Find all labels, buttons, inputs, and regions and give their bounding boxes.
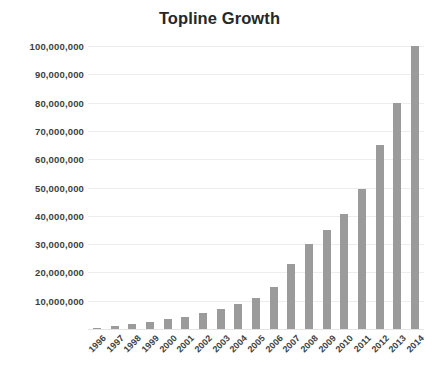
- bar[interactable]: [393, 103, 401, 329]
- bar[interactable]: [411, 46, 419, 329]
- bar[interactable]: [323, 230, 331, 329]
- y-axis-tick-label: 50,000,000: [0, 182, 84, 193]
- y-axis-tick-label: 20,000,000: [0, 267, 84, 278]
- bar[interactable]: [358, 189, 366, 329]
- y-axis-tick-label: 80,000,000: [0, 97, 84, 108]
- y-axis-tick-label: 70,000,000: [0, 125, 84, 136]
- y-axis-tick-label: 100,000,000: [0, 41, 84, 52]
- chart-container: Topline Growth 100,000,00090,000,00080,0…: [0, 0, 439, 387]
- x-axis: 1996199719981999200020012002200320042005…: [88, 329, 424, 387]
- y-axis-tick-label: 90,000,000: [0, 69, 84, 80]
- y-axis-tick-label: 30,000,000: [0, 239, 84, 250]
- y-axis-tick-label: 10,000,000: [0, 295, 84, 306]
- y-axis: 100,000,00090,000,00080,000,00070,000,00…: [0, 46, 84, 329]
- chart-title: Topline Growth: [0, 8, 439, 28]
- bar[interactable]: [305, 244, 313, 329]
- y-axis-tick-label: 60,000,000: [0, 154, 84, 165]
- bar[interactable]: [340, 214, 348, 329]
- y-axis-tick-label: 40,000,000: [0, 210, 84, 221]
- bar[interactable]: [376, 145, 384, 329]
- bars-layer: [88, 46, 424, 329]
